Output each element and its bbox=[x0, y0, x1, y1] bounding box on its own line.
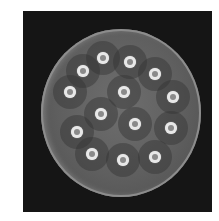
antibiotic-disk bbox=[167, 91, 179, 103]
antibiotic-disk bbox=[129, 118, 141, 130]
antibiotic-disk bbox=[165, 122, 177, 134]
antibiotic-disk bbox=[149, 151, 161, 163]
antibiotic-disk bbox=[64, 86, 76, 98]
antibiotic-disk bbox=[118, 86, 130, 98]
antibiotic-disk bbox=[86, 148, 98, 160]
antibiotic-disk bbox=[77, 65, 89, 77]
antibiotic-disk bbox=[149, 68, 161, 80]
antibiotic-disk bbox=[71, 126, 83, 138]
antibiotic-disk bbox=[95, 108, 107, 120]
antibiotic-disk bbox=[117, 154, 129, 166]
antibiotic-disk bbox=[97, 52, 109, 64]
antibiotic-disk bbox=[124, 56, 136, 68]
